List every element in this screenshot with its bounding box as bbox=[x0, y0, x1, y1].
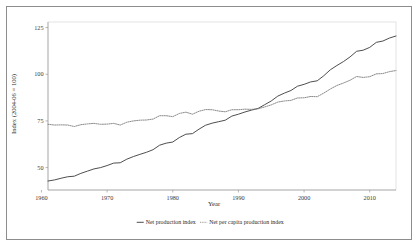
figure-border bbox=[6, 6, 412, 240]
chart-figure: 5075100125 196019701980199020002010 Inde… bbox=[0, 0, 420, 248]
